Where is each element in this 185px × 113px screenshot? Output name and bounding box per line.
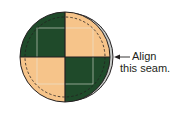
quadrant-bottom-right: [65, 57, 110, 102]
annotation-line-1: Align: [132, 50, 172, 62]
annotation-line-2: this seam.: [120, 62, 180, 74]
arrow-left-icon: [114, 55, 130, 60]
quadrant-top-right: [65, 12, 110, 57]
quadrant-top-left: [20, 12, 65, 57]
quadrant-bottom-left: [20, 57, 65, 102]
